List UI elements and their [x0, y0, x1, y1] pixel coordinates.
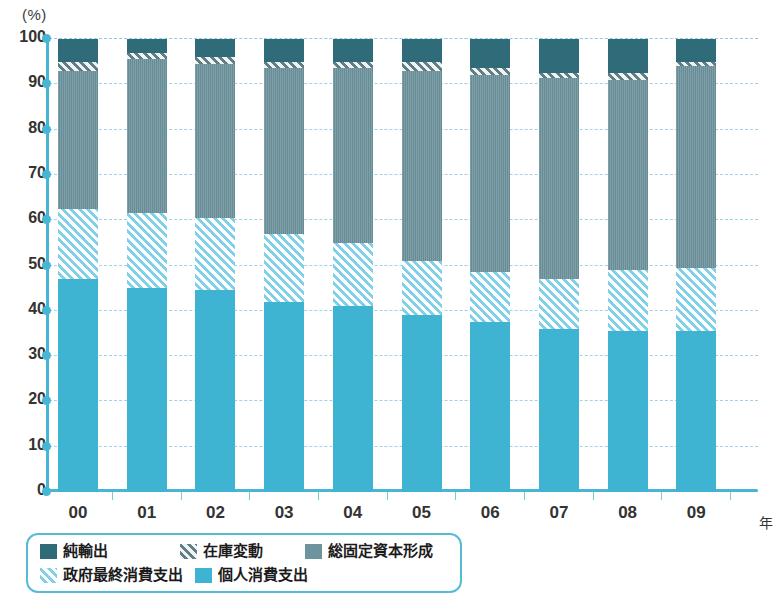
- bar-segment-inv-08[interactable]: [608, 73, 648, 80]
- bar-segment-gf-01[interactable]: [127, 59, 167, 213]
- legend-item-在庫変動[interactable]: 在庫変動: [180, 540, 263, 562]
- bar-segment-pc-08[interactable]: [608, 331, 648, 492]
- bar-segment-nx-08[interactable]: [608, 39, 648, 73]
- bar-04[interactable]: [333, 39, 373, 492]
- bar-segment-gc-09[interactable]: [676, 268, 716, 331]
- bar-segment-gf-04[interactable]: [333, 68, 373, 242]
- bar-segment-inv-06[interactable]: [470, 68, 510, 75]
- x-tick-02: [249, 492, 250, 500]
- bar-segment-pc-04[interactable]: [333, 306, 373, 492]
- bar-01[interactable]: [127, 39, 167, 492]
- x-tick-04: [387, 492, 388, 500]
- bar-segment-nx-00[interactable]: [58, 39, 98, 62]
- bar-segment-inv-09[interactable]: [676, 62, 716, 67]
- bar-segment-inv-05[interactable]: [402, 62, 442, 71]
- bar-segment-pc-05[interactable]: [402, 315, 442, 492]
- x-tick-label-05: 05: [399, 503, 445, 523]
- x-tick-00: [112, 492, 113, 500]
- legend-swatch-icon: [180, 544, 197, 559]
- bar-segment-inv-04[interactable]: [333, 62, 373, 69]
- x-tick-label-03: 03: [261, 503, 307, 523]
- legend-label: 政府最終消費支出: [63, 568, 183, 583]
- legend-swatch-icon: [40, 568, 57, 583]
- bar-segment-nx-01[interactable]: [127, 39, 167, 53]
- bar-segment-gc-00[interactable]: [58, 209, 98, 279]
- legend-item-純輸出[interactable]: 純輸出: [40, 540, 108, 562]
- bar-segment-inv-00[interactable]: [58, 62, 98, 71]
- x-tick-label-09: 09: [673, 503, 719, 523]
- bar-segment-nx-03[interactable]: [264, 39, 304, 62]
- legend-label: 純輸出: [63, 544, 108, 559]
- bar-segment-gf-08[interactable]: [608, 80, 648, 270]
- bar-08[interactable]: [608, 39, 648, 492]
- bar-segment-pc-09[interactable]: [676, 331, 716, 492]
- legend-swatch-icon: [195, 568, 212, 583]
- bar-segment-pc-00[interactable]: [58, 279, 98, 492]
- legend-item-総固定資本形成[interactable]: 総固定資本形成: [305, 540, 433, 562]
- bar-segment-inv-07[interactable]: [539, 73, 579, 78]
- bar-segment-nx-04[interactable]: [333, 39, 373, 62]
- x-tick-03: [318, 492, 319, 500]
- legend-label: 在庫変動: [203, 544, 263, 559]
- x-tick-label-00: 00: [55, 503, 101, 523]
- bar-segment-gf-09[interactable]: [676, 66, 716, 268]
- bar-segment-nx-02[interactable]: [195, 39, 235, 57]
- bar-segment-gf-02[interactable]: [195, 64, 235, 218]
- bar-segment-gc-02[interactable]: [195, 218, 235, 290]
- bar-segment-pc-03[interactable]: [264, 302, 304, 492]
- stacked-bar-chart: (%) 1009080706050403020100 0001020304050…: [0, 0, 779, 601]
- bar-06[interactable]: [470, 39, 510, 492]
- x-tick-label-06: 06: [467, 503, 513, 523]
- x-tick-label-04: 04: [330, 503, 376, 523]
- legend-item-政府最終消費支出[interactable]: 政府最終消費支出: [40, 564, 183, 586]
- bar-segment-nx-06[interactable]: [470, 39, 510, 68]
- x-axis-unit-label: 年: [759, 512, 773, 532]
- bar-03[interactable]: [264, 39, 304, 492]
- bar-segment-pc-01[interactable]: [127, 288, 167, 492]
- x-tick-01: [181, 492, 182, 500]
- x-tick-label-01: 01: [124, 503, 170, 523]
- bar-07[interactable]: [539, 39, 579, 492]
- legend-swatch-icon: [305, 544, 322, 559]
- x-tick-label-02: 02: [192, 503, 238, 523]
- bar-segment-gf-06[interactable]: [470, 75, 510, 272]
- bar-segment-pc-06[interactable]: [470, 322, 510, 492]
- bar-segment-inv-01[interactable]: [127, 53, 167, 60]
- bar-segment-nx-09[interactable]: [676, 39, 716, 62]
- bar-segment-gc-05[interactable]: [402, 261, 442, 315]
- legend-swatch-icon: [40, 544, 57, 559]
- x-tick-label-08: 08: [605, 503, 651, 523]
- bar-09[interactable]: [676, 39, 716, 492]
- x-tick-09: [730, 492, 731, 500]
- x-tick-05: [455, 492, 456, 500]
- bar-segment-nx-05[interactable]: [402, 39, 442, 62]
- bar-segment-gc-01[interactable]: [127, 213, 167, 288]
- bar-segment-gf-07[interactable]: [539, 78, 579, 280]
- chart-legend: 純輸出在庫変動総固定資本形成 政府最終消費支出個人消費支出: [26, 533, 462, 593]
- bar-segment-gf-00[interactable]: [58, 71, 98, 209]
- bar-segment-nx-07[interactable]: [539, 39, 579, 73]
- bar-segment-pc-02[interactable]: [195, 290, 235, 492]
- bar-segment-inv-02[interactable]: [195, 57, 235, 64]
- legend-item-個人消費支出[interactable]: 個人消費支出: [195, 564, 308, 586]
- x-tick-label-07: 07: [536, 503, 582, 523]
- bar-segment-gc-08[interactable]: [608, 270, 648, 331]
- x-tick-08: [661, 492, 662, 500]
- bar-00[interactable]: [58, 39, 98, 492]
- legend-label: 個人消費支出: [218, 568, 308, 583]
- bar-segment-pc-07[interactable]: [539, 329, 579, 492]
- x-tick-06: [524, 492, 525, 500]
- bar-segment-gc-06[interactable]: [470, 272, 510, 322]
- legend-label: 総固定資本形成: [328, 544, 433, 559]
- bar-segment-gc-03[interactable]: [264, 234, 304, 302]
- x-tick-07: [593, 492, 594, 500]
- bars-layer: [0, 0, 779, 601]
- bar-05[interactable]: [402, 39, 442, 492]
- bar-segment-gf-05[interactable]: [402, 71, 442, 261]
- bar-segment-gc-07[interactable]: [539, 279, 579, 329]
- bar-segment-inv-03[interactable]: [264, 62, 304, 69]
- bar-segment-gf-03[interactable]: [264, 68, 304, 233]
- bar-02[interactable]: [195, 39, 235, 492]
- bar-segment-gc-04[interactable]: [333, 243, 373, 306]
